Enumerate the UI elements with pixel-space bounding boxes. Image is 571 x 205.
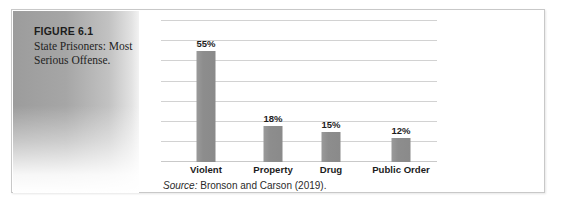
bar-value-property: 18% — [263, 113, 282, 124]
figure-caption-panel: FIGURE 6.1 State Prisoners: Most Serious… — [13, 11, 139, 193]
category-label-public-order: Public Order — [359, 164, 443, 175]
bar-value-violent: 55% — [196, 38, 215, 49]
bar-property[interactable] — [264, 126, 283, 162]
bar-group-property: 18% — [242, 20, 304, 162]
bar-public-order[interactable] — [392, 138, 411, 162]
bar-drug[interactable] — [322, 132, 341, 162]
figure-number: FIGURE 6.1 — [34, 24, 138, 38]
figure-caption-text: State Prisoners: Most Serious Offense. — [34, 39, 138, 67]
category-axis: Violent Property Drug Public Order — [161, 164, 437, 178]
bar-group-drug: 15% — [300, 20, 362, 162]
figure-frame: FIGURE 6.1 State Prisoners: Most Serious… — [11, 9, 545, 193]
caption-text-block: FIGURE 6.1 State Prisoners: Most Serious… — [34, 24, 138, 67]
bar-group-violent: 55% — [175, 20, 237, 162]
source-note: Source: Bronson and Carson (2019). — [163, 180, 326, 191]
bar-group-public-order: 12% — [370, 20, 432, 162]
bar-value-drug: 15% — [321, 119, 340, 130]
bar-chart: 55% 18% 15% 12% Violent Property Drug Pu… — [147, 11, 543, 191]
source-label: Source: — [163, 180, 197, 191]
bar-value-public-order: 12% — [391, 125, 410, 136]
bars-layer: 55% 18% 15% 12% — [161, 20, 437, 162]
source-citation: Bronson and Carson (2019). — [197, 180, 326, 191]
bar-violent[interactable] — [197, 51, 216, 162]
